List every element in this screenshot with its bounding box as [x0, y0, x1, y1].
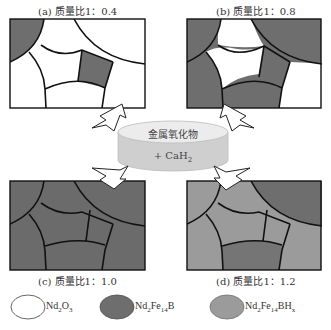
legend-swatch-nd2fe14bhx — [210, 295, 244, 319]
legend-label-nd2fe14bhx: Nd2Fe14BHx — [245, 300, 295, 314]
legend-swatch-nd2o3 — [11, 295, 45, 319]
hddr-diagram: (a) 质量比1：0.4 (b) 质量比1：0.8 (c) 质量比1：1.0 (… — [0, 0, 331, 330]
legend-swatch-nd2fe14b — [100, 295, 134, 319]
legend-label-nd2fe14b: Nd2Fe14B — [135, 300, 174, 314]
legend-swatches — [0, 0, 331, 330]
legend-label-nd2o3: Nd2O3 — [46, 300, 72, 314]
